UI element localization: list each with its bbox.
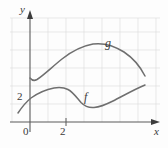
y-axis-label: y <box>20 4 25 15</box>
x-tick-label-2: 2 <box>60 126 66 137</box>
curve-f <box>18 85 145 113</box>
x-axis-label: x <box>154 126 159 137</box>
curve-label-g: g <box>105 37 111 49</box>
y-axis-arrow-icon <box>27 10 33 19</box>
curve-g <box>30 44 145 81</box>
origin-tick-label: 0 <box>23 126 29 137</box>
y-tick-label-2: 2 <box>17 91 23 102</box>
axes <box>10 10 160 132</box>
graph-figure: y x g f 0 2 2 <box>0 0 168 148</box>
curve-label-f: f <box>84 91 87 103</box>
